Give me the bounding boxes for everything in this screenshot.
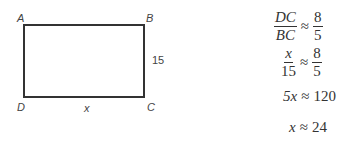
eq2-numerator: x [284,46,293,63]
vertex-c-label: C [147,101,155,113]
side-dc-length: x [84,102,90,114]
eq4-operator: ≈ [300,119,308,136]
eq3-operator: ≈ [301,88,309,105]
side-bc-length: 15 [152,54,164,66]
eq2-denominator: 15 [281,63,296,79]
eq1-rhs-numerator: 8 [313,10,323,27]
eq1-numerator: DC [274,10,297,27]
eq3-rhs: 120 [313,88,336,105]
vertex-d-label: D [17,101,25,113]
eq4-lhs: x [289,119,296,136]
eq2-operator: ≈ [300,54,308,71]
equation-3: 5x ≈ 120 [283,88,336,105]
equation-2: x15 ≈ 85 [281,46,322,79]
eq3-lhs: 5x [283,88,297,105]
eq2-rhs-numerator: 8 [312,46,322,63]
eq1-rhs-denominator: 5 [314,27,322,43]
eq1-denominator: BC [276,27,295,43]
vertex-b-label: B [146,12,153,24]
eq4-rhs: 24 [312,119,327,136]
rectangle-abcd [23,24,145,98]
eq2-rhs-denominator: 5 [313,63,321,79]
eq1-operator: ≈ [301,18,309,35]
equation-4: x ≈ 24 [289,119,327,136]
equation-1: DCBC ≈ 85 [274,10,323,43]
vertex-a-label: A [17,12,24,24]
